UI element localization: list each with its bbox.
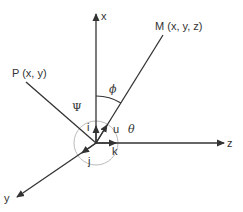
j-unit-vector bbox=[82, 143, 96, 153]
i-label: i bbox=[87, 121, 89, 133]
phi-arc bbox=[96, 96, 121, 103]
k-label: k bbox=[112, 145, 118, 157]
p-vector-line bbox=[26, 82, 96, 143]
p-point-label: P (x, y) bbox=[12, 67, 47, 79]
psi-label: Ψ bbox=[72, 101, 82, 114]
u-unit-vector bbox=[96, 125, 107, 143]
phi-label: ϕ bbox=[109, 83, 117, 96]
u-label: u bbox=[113, 123, 119, 135]
x-axis-label: x bbox=[101, 10, 107, 22]
z-axis-label: z bbox=[227, 137, 233, 149]
y-axis-label: y bbox=[4, 192, 10, 204]
j-label: j bbox=[87, 155, 90, 167]
coordinate-diagram: x z y M (x, y, z) P (x, y) i u k j ϕ Ψ θ bbox=[0, 0, 243, 212]
m-point-label: M (x, y, z) bbox=[155, 20, 202, 32]
theta-label: θ bbox=[128, 123, 135, 136]
